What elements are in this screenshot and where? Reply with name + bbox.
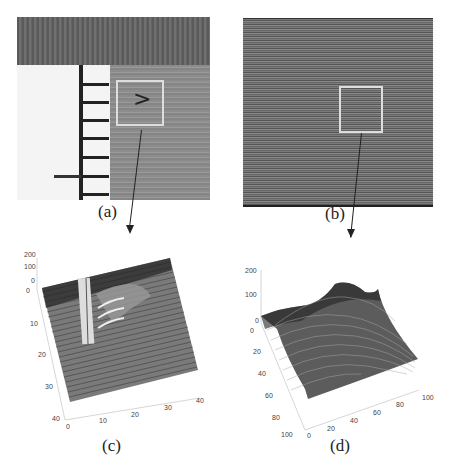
ruler: mm. [17, 65, 110, 200]
ruler-long-tick [54, 175, 82, 178]
surface-plot-c: 200 100 0 0 10 20 30 40 0 10 20 30 40 [0, 230, 225, 470]
panel-label-c: (c) [102, 436, 121, 456]
ruler-tick [81, 101, 109, 104]
x-tick: 80 [396, 401, 404, 408]
ruler-tick [81, 119, 109, 122]
y-tick: 100 [281, 431, 293, 438]
z-tick: 100 [245, 291, 257, 298]
y-tick: 80 [272, 414, 280, 421]
x-tick: 100 [422, 394, 434, 401]
x-tick: 0 [66, 423, 70, 430]
y-tick: 40 [52, 415, 60, 422]
ruler-tick [81, 137, 109, 140]
surface-plot-d: 200 100 0 0 20 40 60 80 100 0 20 40 60 8… [225, 230, 449, 470]
z-tick: 0 [31, 277, 35, 284]
x-tick: 20 [327, 425, 335, 432]
z-tick: 100 [24, 263, 36, 270]
ruler-tick [81, 83, 109, 86]
panel-a-image: mm. > [17, 17, 210, 200]
y-tick: 10 [30, 320, 38, 327]
y-tick: 20 [38, 351, 46, 358]
panel-label-a: (a) [98, 202, 117, 222]
panel-label-b: (b) [325, 204, 345, 224]
panel-label-d: (d) [330, 436, 350, 456]
roi-box-a: > [116, 80, 164, 126]
y-tick: 40 [258, 370, 266, 377]
ruler-tick [81, 193, 109, 196]
ruler-tick [81, 156, 109, 159]
x-tick: 40 [196, 397, 204, 404]
y-tick: 0 [26, 287, 30, 294]
panel-a-surface-top [17, 17, 210, 65]
y-tick: 60 [265, 392, 273, 399]
roi-box-b [339, 86, 383, 133]
z-tick: 200 [24, 251, 36, 258]
x-tick: 30 [164, 404, 172, 411]
x-tick: 0 [307, 432, 311, 439]
z-tick: 0 [255, 317, 259, 324]
x-tick: 60 [373, 409, 381, 416]
y-tick: 30 [45, 383, 53, 390]
y-tick: 20 [253, 348, 261, 355]
z-tick: 200 [245, 267, 257, 274]
x-tick: 20 [131, 411, 139, 418]
x-tick: 40 [350, 417, 358, 424]
chevron-mark-icon: > [133, 86, 151, 111]
ruler-tick [81, 175, 109, 178]
ruler-unit-label: mm. [17, 110, 21, 171]
y-tick: 0 [250, 327, 254, 334]
x-tick: 10 [99, 417, 107, 424]
panel-b-image [243, 18, 433, 207]
